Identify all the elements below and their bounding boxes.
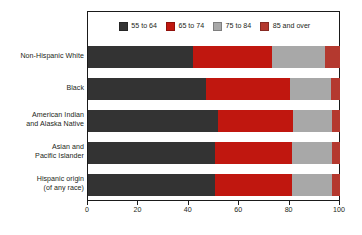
bar-segment[interactable]	[88, 46, 193, 68]
x-axis-tick-label: 40	[184, 206, 192, 215]
y-axis-label: Non-Hispanic White	[0, 52, 84, 61]
x-axis-tick-label: 100	[333, 206, 345, 215]
bar-segment[interactable]	[332, 110, 340, 132]
x-axis-tick	[289, 201, 290, 205]
y-axis-label-line: Pacific Islander	[0, 152, 84, 161]
bar-segment[interactable]	[331, 78, 340, 100]
y-axis-label-line: Asian and	[0, 143, 84, 152]
x-axis-tick	[87, 201, 88, 205]
x-axis-tick-label: 60	[234, 206, 242, 215]
y-axis-label: American Indianand Alaska Native	[0, 111, 84, 128]
bar-row[interactable]	[88, 110, 340, 132]
bar-segment[interactable]	[292, 174, 332, 196]
bar-row[interactable]	[88, 174, 340, 196]
legend-swatch-icon	[213, 22, 222, 31]
bar-segment[interactable]	[332, 174, 340, 196]
bar-segment[interactable]	[88, 110, 218, 132]
x-axis-tick-label: 80	[285, 206, 293, 215]
bar-segment[interactable]	[293, 110, 332, 132]
x-axis-tick	[137, 201, 138, 205]
legend-swatch-icon	[166, 22, 175, 31]
legend-swatch-icon	[119, 22, 128, 31]
bars-container	[88, 41, 340, 201]
legend-item[interactable]: 75 to 84	[213, 22, 251, 31]
y-axis-label-line: Black	[0, 84, 84, 93]
legend-swatch-icon	[260, 22, 269, 31]
legend-label: 75 to 84	[226, 22, 252, 30]
bar-segment[interactable]	[88, 78, 206, 100]
bar-segment[interactable]	[206, 78, 289, 100]
legend-label: 55 to 64	[131, 22, 157, 30]
x-axis-tick	[238, 201, 239, 205]
bar-row[interactable]	[88, 78, 340, 100]
y-axis-label: Black	[0, 84, 84, 93]
y-axis-label-line: Hispanic origin	[0, 175, 84, 184]
bar-row[interactable]	[88, 46, 340, 68]
plot-area: 55 to 6465 to 7475 to 8485 and over	[87, 11, 340, 201]
x-axis-tick-label: 20	[133, 206, 141, 215]
legend-item[interactable]: 85 and over	[260, 22, 310, 31]
x-axis-tick-label: 0	[85, 206, 89, 215]
y-axis-label: Asian andPacific Islander	[0, 143, 84, 160]
bar-segment[interactable]	[332, 142, 340, 164]
y-axis-label-line: Non-Hispanic White	[0, 52, 84, 61]
bar-segment[interactable]	[88, 174, 215, 196]
bar-segment[interactable]	[290, 78, 332, 100]
y-axis-category-labels: Non-Hispanic WhiteBlackAmerican Indianan…	[0, 40, 84, 200]
bar-segment[interactable]	[325, 46, 340, 68]
x-axis-tick	[188, 201, 189, 205]
x-axis-tick	[339, 201, 340, 205]
bar-segment[interactable]	[292, 142, 332, 164]
x-axis-tick-labels: 020406080100	[87, 206, 340, 218]
y-axis-label-line: (of any race)	[0, 184, 84, 193]
y-axis-label: Hispanic origin(of any race)	[0, 175, 84, 192]
legend-label: 85 and over	[273, 22, 310, 30]
bar-segment[interactable]	[272, 46, 325, 68]
bar-segment[interactable]	[215, 142, 292, 164]
legend-item[interactable]: 65 to 74	[166, 22, 204, 31]
chart-legend: 55 to 6465 to 7475 to 8485 and over	[88, 12, 341, 40]
bar-segment[interactable]	[88, 142, 215, 164]
stacked-bar-chart: Non-Hispanic WhiteBlackAmerican Indianan…	[0, 0, 362, 235]
bar-row[interactable]	[88, 142, 340, 164]
y-axis-label-line: American Indian	[0, 111, 84, 120]
bar-segment[interactable]	[215, 174, 292, 196]
legend-label: 65 to 74	[178, 22, 204, 30]
bar-segment[interactable]	[193, 46, 272, 68]
y-axis-label-line: and Alaska Native	[0, 120, 84, 129]
bar-segment[interactable]	[218, 110, 294, 132]
legend-item[interactable]: 55 to 64	[119, 22, 157, 31]
